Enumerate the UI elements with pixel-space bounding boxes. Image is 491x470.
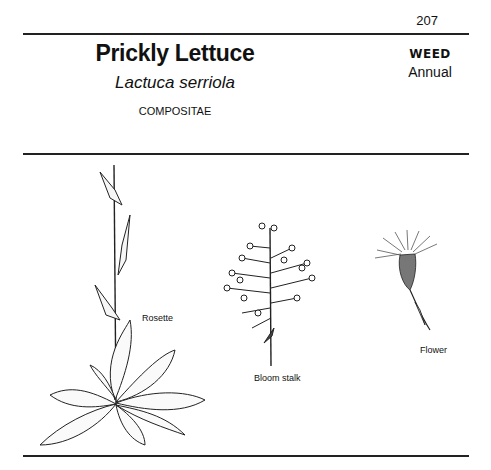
bloom-stalk-illustration (222, 218, 332, 368)
bloom-stalk-label: Bloom stalk (254, 373, 301, 383)
flower-label: Flower (420, 345, 447, 355)
bottom-rule (23, 455, 469, 457)
common-name-title: Prickly Lettuce (0, 40, 350, 67)
life-cycle-label: Annual (380, 64, 480, 80)
top-rule (23, 33, 469, 35)
middle-rule (23, 153, 469, 155)
flower-illustration (375, 230, 445, 340)
rosette-illustration (30, 160, 220, 455)
rosette-label: Rosette (142, 313, 173, 323)
category-label: WEED (380, 47, 480, 61)
family-name: COMPOSITAE (0, 105, 350, 117)
page-number: 207 (416, 13, 438, 28)
scientific-name: Lactuca serriola (0, 73, 350, 93)
